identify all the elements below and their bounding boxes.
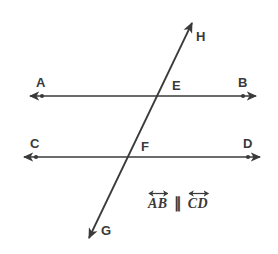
caption-line-cd: CD xyxy=(188,190,208,211)
line-cd-overarrow-icon xyxy=(186,190,211,197)
parallel-symbol: ∥ xyxy=(174,196,182,211)
label-point-f: F xyxy=(141,140,149,153)
label-point-b: B xyxy=(238,76,248,89)
line-ab xyxy=(30,94,256,98)
point-d-dot xyxy=(246,155,250,159)
geometry-diagram: A B C D E F G H AB ∥ CD xyxy=(0,0,278,254)
point-b-dot xyxy=(241,94,245,98)
line-cd xyxy=(24,155,260,159)
caption-line-ab-text: AB xyxy=(148,196,168,211)
label-point-c: C xyxy=(30,137,40,150)
point-a-dot xyxy=(40,94,44,98)
caption-line-ab: AB xyxy=(148,190,168,211)
label-point-h: H xyxy=(196,30,206,43)
diagram-canvas xyxy=(0,0,278,254)
label-point-g: G xyxy=(101,224,111,237)
caption-line-cd-text: CD xyxy=(188,196,208,211)
point-c-dot xyxy=(34,155,38,159)
label-point-d: D xyxy=(243,137,253,150)
label-point-a: A xyxy=(36,76,46,89)
parallel-caption: AB ∥ CD xyxy=(148,190,208,211)
label-point-e: E xyxy=(172,79,181,92)
line-ab-overarrow-icon xyxy=(146,190,171,197)
